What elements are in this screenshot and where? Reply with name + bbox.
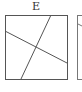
diagonal-line-2 (21, 15, 51, 79)
option-e-figure (0, 0, 82, 92)
next-square-line-partial (78, 24, 82, 26)
